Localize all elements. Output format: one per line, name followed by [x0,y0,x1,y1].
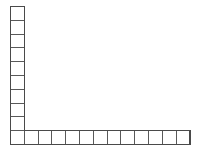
horizontal-cell-8 [107,131,121,145]
vertical-cell-7 [11,89,25,103]
horizontal-row-cells [11,131,190,145]
vertical-column-cells [11,7,25,131]
horizontal-cell-10 [135,131,149,145]
corner-square [11,131,25,145]
horizontal-cell-3 [38,131,52,145]
horizontal-cell-11 [149,131,163,145]
horizontal-cell-2 [24,131,38,145]
vertical-cell-3 [11,34,25,48]
horizontal-cell-9 [121,131,135,145]
vertical-cell-1 [11,7,25,21]
horizontal-cell-12 [162,131,176,145]
horizontal-cell-13 [176,131,190,145]
horizontal-cell-7 [93,131,107,145]
horizontal-cell-6 [80,131,94,145]
figure-canvas [0,0,199,156]
l-shape-outline [11,7,190,145]
l-shape-grid-diagram [0,0,199,156]
vertical-cell-5 [11,62,25,76]
vertical-cell-2 [11,20,25,34]
vertical-cell-8 [11,103,25,117]
vertical-cell-9 [11,117,25,131]
horizontal-cell-4 [52,131,66,145]
vertical-cell-4 [11,48,25,62]
vertical-cell-6 [11,76,25,90]
horizontal-cell-5 [66,131,80,145]
